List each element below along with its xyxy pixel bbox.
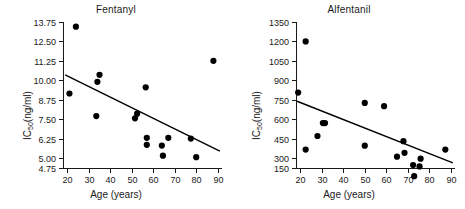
data-point	[303, 146, 309, 152]
x-tick-label: 50	[360, 175, 370, 185]
y-tick-label: 750	[274, 96, 289, 106]
panel-alfentanil: Alfentanil IC50(ng/ml) 15030045060075090…	[233, 0, 465, 209]
axis-lines	[297, 22, 456, 169]
x-tick-label: 30	[84, 175, 94, 185]
regression-line	[297, 101, 453, 163]
y-tick-label: 1050	[269, 57, 289, 67]
x-tick-label: 70	[170, 175, 180, 185]
data-point	[134, 111, 140, 117]
data-point	[362, 143, 368, 149]
figure-two-panel-scatter: Fentanyl IC50(ng/ml) 4.755.006.257.508.7…	[0, 0, 465, 209]
data-point	[381, 103, 387, 109]
data-point	[442, 146, 448, 152]
x-tick-label: 50	[127, 175, 137, 185]
x-tick-label: 20	[62, 175, 72, 185]
axis-lines	[64, 22, 223, 169]
data-point	[94, 79, 100, 85]
panel-fentanyl: Fentanyl IC50(ng/ml) 4.755.006.257.508.7…	[0, 0, 232, 209]
y-tick-label: 13.75	[33, 18, 56, 28]
data-point	[418, 156, 424, 162]
data-point	[96, 72, 102, 78]
data-point	[314, 133, 320, 139]
y-tick-label: 450	[274, 135, 289, 145]
x-tick-label: 30	[317, 175, 327, 185]
data-point	[410, 162, 416, 168]
plot-area-fentanyl: 4.755.006.257.508.7510.0011.2512.5013.75…	[0, 0, 232, 209]
x-tick-label: 60	[381, 175, 391, 185]
x-tick-label: 80	[424, 175, 434, 185]
data-point	[188, 135, 194, 141]
x-tick-label: 90	[213, 175, 223, 185]
y-tick-label: 11.25	[34, 57, 56, 67]
y-tick-label: 12.50	[33, 37, 56, 47]
data-point	[144, 142, 150, 148]
x-tick-label: 80	[191, 175, 201, 185]
y-tick-label: 6.25	[38, 135, 56, 145]
y-tick-label: 5.00	[38, 154, 56, 164]
plot-area-alfentanil: 1503004506007509001050120013502030405060…	[233, 0, 465, 209]
data-point	[144, 135, 150, 141]
data-point	[400, 138, 406, 144]
data-point	[73, 24, 79, 30]
y-tick-label: 7.50	[38, 115, 56, 125]
data-point	[93, 113, 99, 119]
data-point	[303, 38, 309, 44]
data-point	[416, 163, 422, 169]
data-point	[362, 100, 368, 106]
y-tick-label: 10.00	[33, 76, 56, 86]
y-tick-label: 150	[274, 164, 289, 174]
data-point	[66, 90, 72, 96]
y-tick-label: 1200	[269, 37, 289, 47]
y-tick-label: 600	[274, 115, 289, 125]
data-point	[193, 154, 199, 160]
data-point	[210, 58, 216, 64]
y-tick-label: 4.75	[38, 164, 56, 174]
regression-line	[65, 75, 220, 151]
x-tick-label: 60	[148, 175, 158, 185]
x-tick-label: 90	[446, 175, 456, 185]
x-tick-label: 40	[105, 175, 115, 185]
x-tick-label: 20	[295, 175, 305, 185]
x-axis-title-alfentanil: Age (years)	[233, 189, 465, 200]
data-point	[295, 89, 301, 95]
data-point	[165, 135, 171, 141]
y-tick-label: 900	[274, 76, 289, 86]
x-tick-label: 40	[338, 175, 348, 185]
data-point	[143, 84, 149, 90]
data-point	[322, 120, 328, 126]
y-tick-label: 8.75	[38, 96, 56, 106]
x-axis-title-fentanyl: Age (years)	[0, 189, 232, 200]
y-tick-label: 1350	[269, 18, 289, 28]
y-tick-label: 300	[274, 154, 289, 164]
data-point	[411, 173, 417, 179]
data-point	[159, 142, 165, 148]
data-point	[160, 153, 166, 159]
data-point	[394, 154, 400, 160]
data-point	[401, 150, 407, 156]
